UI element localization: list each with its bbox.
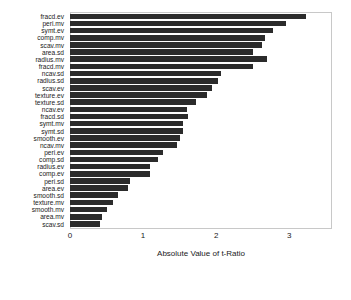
bar-row	[70, 56, 331, 63]
bar-row	[70, 199, 331, 206]
bar	[70, 21, 286, 27]
bar-row	[70, 206, 331, 213]
bar-row	[70, 170, 331, 177]
bar-row	[70, 120, 331, 127]
y-axis-label: symt.mv	[0, 120, 67, 127]
y-axis-label: radius.ev	[0, 163, 67, 170]
bar	[70, 99, 196, 105]
y-axis-label: fracd.ev	[0, 13, 67, 20]
bar	[70, 164, 150, 170]
bar	[70, 85, 212, 91]
bar-row	[70, 142, 331, 149]
y-axis-label: ncav.ev	[0, 106, 67, 113]
bar-row	[70, 213, 331, 220]
bar	[70, 56, 267, 62]
bar-row	[70, 27, 331, 34]
bar-row	[70, 163, 331, 170]
bar-row	[70, 128, 331, 135]
bar	[70, 42, 262, 48]
y-axis-label: smooth.sd	[0, 192, 67, 199]
bar-row	[70, 34, 331, 41]
bar-row	[70, 63, 331, 70]
y-axis-label: texture.sd	[0, 99, 67, 106]
bar-chart: fracd.evperi.mvsymt.evcomp.mvscav.mvarea…	[0, 0, 351, 300]
y-axis-label: area.mv	[0, 213, 67, 220]
y-axis-label: texture.mv	[0, 199, 67, 206]
y-axis-label: radius.sd	[0, 77, 67, 84]
bar	[70, 121, 183, 127]
bar	[70, 49, 253, 55]
bar-row	[70, 20, 331, 27]
bar	[70, 71, 221, 77]
bar-row	[70, 221, 331, 228]
y-axis-label: scav.mv	[0, 42, 67, 49]
bar	[70, 200, 113, 206]
bar	[70, 92, 207, 98]
y-axis-label: comp.mv	[0, 34, 67, 41]
bar	[70, 35, 265, 41]
bar-row	[70, 85, 331, 92]
x-axis-tick-label: 1	[141, 231, 145, 240]
bar-row	[70, 99, 331, 106]
y-axis-label: ncav.mv	[0, 142, 67, 149]
bar-row	[70, 106, 331, 113]
bar	[70, 207, 107, 213]
bar-row	[70, 13, 331, 20]
y-axis-label: smooth.ev	[0, 135, 67, 142]
y-axis-label: radius.mv	[0, 56, 67, 63]
bar	[70, 157, 158, 163]
bar-row	[70, 70, 331, 77]
x-axis-tick-label: 0	[68, 231, 72, 240]
bar-row	[70, 49, 331, 56]
y-axis-label: smooth.mv	[0, 206, 67, 213]
bar-row	[70, 42, 331, 49]
y-axis-label: peri.mv	[0, 20, 67, 27]
bar	[70, 78, 218, 84]
bar	[70, 28, 273, 34]
y-axis-label: scav.sd	[0, 221, 67, 228]
bar-row	[70, 185, 331, 192]
bar	[70, 214, 102, 220]
bar	[70, 135, 180, 141]
y-axis-label: symt.sd	[0, 128, 67, 135]
y-axis-label: comp.ev	[0, 170, 67, 177]
bar	[70, 142, 177, 148]
bar	[70, 14, 306, 20]
x-axis-ticks: 0123	[0, 231, 351, 245]
y-axis-label: scav.ev	[0, 85, 67, 92]
bar	[70, 64, 253, 70]
bar	[70, 192, 118, 198]
x-axis-title: Absolute Value of t-Ratio	[70, 249, 332, 258]
bar	[70, 178, 130, 184]
y-axis-label: peri.ev	[0, 149, 67, 156]
y-axis-category-labels: fracd.evperi.mvsymt.evcomp.mvscav.mvarea…	[0, 13, 67, 228]
y-axis-label: symt.ev	[0, 27, 67, 34]
bar-row	[70, 113, 331, 120]
bar-row	[70, 192, 331, 199]
bar	[70, 107, 187, 113]
y-axis-label: fracd.mv	[0, 63, 67, 70]
bar-row	[70, 156, 331, 163]
bar-row	[70, 92, 331, 99]
bar-row	[70, 77, 331, 84]
bar	[70, 221, 100, 227]
y-axis-label: area.ev	[0, 185, 67, 192]
bar-row	[70, 178, 331, 185]
y-axis-label: fracd.sd	[0, 113, 67, 120]
y-axis-label: peri.sd	[0, 178, 67, 185]
bar	[70, 185, 128, 191]
bars-container	[70, 13, 331, 228]
bar	[70, 114, 188, 120]
bar	[70, 171, 150, 177]
y-axis-label: area.sd	[0, 49, 67, 56]
x-axis-tick-label: 2	[214, 231, 218, 240]
bar-row	[70, 149, 331, 156]
y-axis-label: texture.ev	[0, 92, 67, 99]
bar	[70, 150, 163, 156]
x-axis-tick-label: 3	[287, 231, 291, 240]
y-axis-label: comp.sd	[0, 156, 67, 163]
bar-row	[70, 135, 331, 142]
bar	[70, 128, 183, 134]
y-axis-label: ncav.sd	[0, 70, 67, 77]
